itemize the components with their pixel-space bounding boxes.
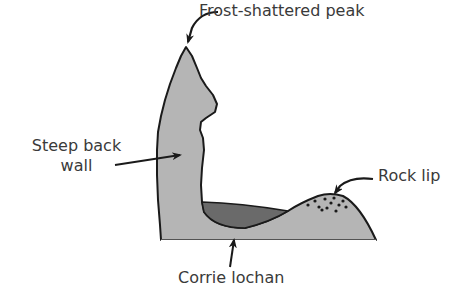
label-frost-shattered-peak: Frost-shattered peak: [199, 1, 365, 21]
label-steep-back-wall-line1: Steep back: [29, 136, 124, 156]
corrie-lochan-arrow: [230, 240, 234, 267]
label-corrie-lochan: Corrie lochan: [178, 268, 284, 288]
label-steep-back-wall: Steep back wall: [29, 136, 124, 176]
label-steep-back-wall-line2: wall: [29, 156, 124, 176]
label-rock-lip: Rock lip: [378, 166, 440, 186]
rock-lip-arrow: [335, 178, 373, 193]
